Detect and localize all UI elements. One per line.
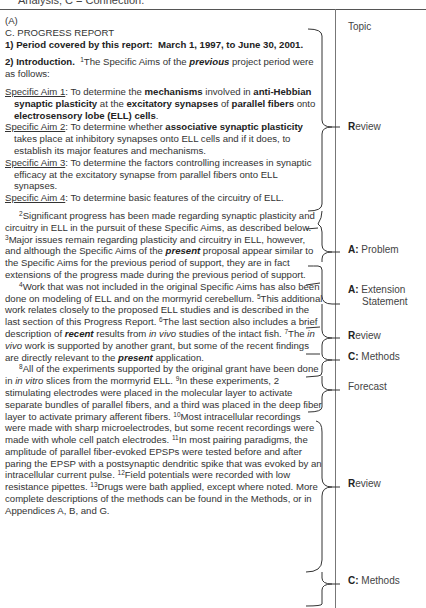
annotation-key: A: bbox=[348, 284, 359, 295]
margin-annotations: TopicReviewA: ProblemA: ExtensionStateme… bbox=[0, 0, 426, 608]
annotation-c-methods: C: Methods bbox=[348, 575, 400, 587]
annotation-key: C: bbox=[348, 351, 359, 362]
annotation-text: eview bbox=[355, 121, 381, 132]
annotation-text: Extension bbox=[359, 284, 406, 295]
annotation-text: Methods bbox=[359, 351, 400, 362]
annotation-text: Topic bbox=[348, 21, 371, 32]
annotation-a-extension: A: ExtensionStatement bbox=[348, 284, 408, 308]
annotation-text: Forecast bbox=[348, 381, 387, 392]
annotation-text: Methods bbox=[359, 575, 400, 586]
annotation-key: A: bbox=[348, 244, 359, 255]
annotation-text: eview bbox=[355, 478, 381, 489]
annotation-topic: Topic bbox=[348, 21, 371, 33]
annotation-a-problem: A: Problem bbox=[348, 244, 399, 256]
annotation-review: Review bbox=[348, 478, 381, 490]
annotation-review: Review bbox=[348, 330, 381, 342]
annotation-c-methods: C: Methods bbox=[348, 351, 400, 363]
annotation-forecast: Forecast bbox=[348, 381, 387, 393]
annotation-text: Problem bbox=[359, 244, 399, 255]
annotation-review: Review bbox=[348, 121, 381, 133]
annotation-text: eview bbox=[355, 330, 381, 341]
annotation-text-line2: Statement bbox=[348, 296, 408, 308]
annotation-key: C: bbox=[348, 575, 359, 586]
